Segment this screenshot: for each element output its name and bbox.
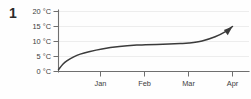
y-axis-tick-label-20: 20 °C xyxy=(32,7,51,16)
temperature-curve xyxy=(59,27,233,70)
y-axis-tick-label-0: 0 °C xyxy=(37,67,52,76)
x-axis-tick-label-jan: Jan xyxy=(95,79,107,88)
x-axis-tick-label-feb: Feb xyxy=(138,79,151,88)
temperature-line-chart: 20 °C 15 °C 10 °C 5 °C 0 °C Jan Feb Mar … xyxy=(0,0,251,99)
x-tick-marks-group xyxy=(101,72,233,77)
y-axis-tick-label-10: 10 °C xyxy=(32,37,51,46)
figure-container: 1 20 °C 15 °C 10 °C 5 °C 0 °C xyxy=(0,0,251,99)
y-axis-tick-label-15: 15 °C xyxy=(32,22,51,31)
x-axis-tick-label-mar: Mar xyxy=(182,79,195,88)
y-tick-marks-group xyxy=(54,12,59,72)
x-axis-tick-label-apr: Apr xyxy=(227,79,239,88)
y-axis-tick-label-5: 5 °C xyxy=(37,52,52,61)
curve-arrowhead-icon xyxy=(224,27,233,36)
